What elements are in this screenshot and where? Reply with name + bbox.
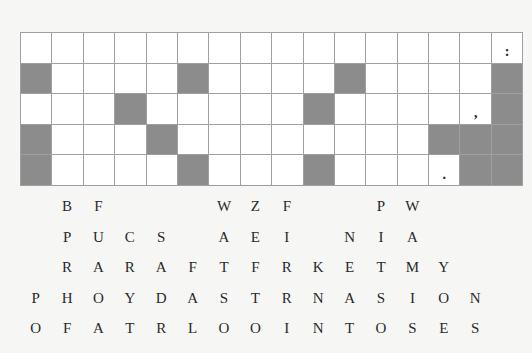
letter-tile[interactable]: S <box>397 313 428 344</box>
letter-tile[interactable]: I <box>397 283 428 314</box>
letter-tile[interactable]: O <box>240 313 271 344</box>
letter-tile[interactable]: R <box>271 283 302 314</box>
answer-cell[interactable] <box>115 125 146 156</box>
answer-cell[interactable] <box>147 155 178 186</box>
letter-tile[interactable]: F <box>51 313 82 344</box>
letter-tile[interactable]: R <box>114 252 145 283</box>
answer-cell[interactable] <box>335 94 366 125</box>
answer-cell[interactable] <box>272 64 303 95</box>
letter-tile[interactable]: I <box>271 222 302 253</box>
answer-cell[interactable] <box>398 155 429 186</box>
letter-tile[interactable]: A <box>208 222 239 253</box>
letter-tile[interactable]: C <box>114 222 145 253</box>
letter-tile[interactable]: N <box>459 283 490 314</box>
answer-cell[interactable] <box>398 33 429 64</box>
answer-cell[interactable] <box>272 125 303 156</box>
answer-cell[interactable] <box>84 94 115 125</box>
answer-cell[interactable] <box>366 155 397 186</box>
answer-cell[interactable] <box>241 94 272 125</box>
letter-tile[interactable]: Y <box>114 283 145 314</box>
letter-tile[interactable]: E <box>334 252 365 283</box>
letter-tile[interactable]: N <box>303 283 334 314</box>
answer-cell[interactable] <box>429 94 460 125</box>
letter-tile[interactable]: Z <box>240 191 271 222</box>
letter-tile[interactable]: O <box>208 313 239 344</box>
answer-cell[interactable] <box>335 155 366 186</box>
letter-tile[interactable]: F <box>240 252 271 283</box>
letter-tile[interactable]: S <box>208 283 239 314</box>
letter-tile[interactable]: T <box>208 252 239 283</box>
letter-tile[interactable]: A <box>83 313 114 344</box>
answer-cell[interactable] <box>366 94 397 125</box>
answer-cell[interactable] <box>304 64 335 95</box>
answer-cell[interactable] <box>429 64 460 95</box>
letter-tile[interactable]: S <box>365 283 396 314</box>
letter-tile[interactable]: U <box>83 222 114 253</box>
answer-cell[interactable] <box>460 33 491 64</box>
letter-tile[interactable]: I <box>271 313 302 344</box>
letter-tile[interactable]: D <box>146 283 177 314</box>
answer-cell[interactable] <box>241 33 272 64</box>
letter-tile[interactable]: A <box>177 283 208 314</box>
answer-cell[interactable] <box>84 33 115 64</box>
letter-tile[interactable]: I <box>365 222 396 253</box>
answer-cell[interactable] <box>272 94 303 125</box>
letter-tile[interactable]: O <box>428 283 459 314</box>
letter-tile[interactable]: Y <box>428 252 459 283</box>
answer-cell[interactable] <box>241 125 272 156</box>
answer-cell[interactable] <box>115 64 146 95</box>
letter-tile[interactable]: T <box>240 283 271 314</box>
answer-cell[interactable] <box>209 33 240 64</box>
answer-cell[interactable] <box>147 94 178 125</box>
answer-cell[interactable] <box>272 155 303 186</box>
answer-cell[interactable] <box>115 155 146 186</box>
letter-tile[interactable]: T <box>114 313 145 344</box>
answer-cell[interactable] <box>52 33 83 64</box>
answer-cell[interactable] <box>52 125 83 156</box>
letter-tile[interactable]: W <box>397 191 428 222</box>
letter-tile[interactable]: R <box>146 313 177 344</box>
letter-tile[interactable]: O <box>83 283 114 314</box>
letter-tile[interactable]: E <box>428 313 459 344</box>
answer-cell[interactable] <box>115 33 146 64</box>
answer-cell[interactable] <box>52 155 83 186</box>
answer-cell[interactable] <box>84 125 115 156</box>
answer-cell[interactable] <box>241 64 272 95</box>
answer-cell[interactable] <box>398 64 429 95</box>
answer-cell[interactable] <box>272 33 303 64</box>
letter-tile[interactable]: S <box>146 222 177 253</box>
letter-tile[interactable]: A <box>334 283 365 314</box>
letter-tile[interactable]: L <box>177 313 208 344</box>
letter-tile[interactable]: P <box>51 222 82 253</box>
answer-cell[interactable] <box>84 155 115 186</box>
letter-tile[interactable]: R <box>51 252 82 283</box>
answer-cell[interactable]: : <box>492 33 523 64</box>
answer-cell[interactable] <box>178 94 209 125</box>
answer-cell[interactable] <box>241 155 272 186</box>
letter-tile[interactable]: M <box>397 252 428 283</box>
answer-cell[interactable] <box>21 33 52 64</box>
answer-cell[interactable] <box>147 33 178 64</box>
letter-tile[interactable]: P <box>20 283 51 314</box>
answer-cell[interactable] <box>209 125 240 156</box>
answer-cell[interactable] <box>398 94 429 125</box>
answer-cell[interactable] <box>304 125 335 156</box>
answer-cell[interactable] <box>147 64 178 95</box>
letter-tile[interactable]: F <box>83 191 114 222</box>
answer-cell[interactable] <box>209 94 240 125</box>
letter-tile[interactable]: F <box>271 191 302 222</box>
answer-cell[interactable] <box>398 125 429 156</box>
letter-tile[interactable]: B <box>51 191 82 222</box>
answer-cell[interactable] <box>209 64 240 95</box>
answer-cell[interactable] <box>178 33 209 64</box>
answer-cell[interactable] <box>429 33 460 64</box>
letter-tile[interactable]: E <box>240 222 271 253</box>
answer-cell[interactable] <box>304 33 335 64</box>
letter-tile[interactable]: F <box>177 252 208 283</box>
letter-tile[interactable]: O <box>365 313 396 344</box>
letter-tile[interactable]: K <box>303 252 334 283</box>
answer-cell[interactable] <box>366 64 397 95</box>
answer-cell[interactable] <box>366 33 397 64</box>
letter-tile[interactable]: N <box>303 313 334 344</box>
letter-tile[interactable]: N <box>334 222 365 253</box>
